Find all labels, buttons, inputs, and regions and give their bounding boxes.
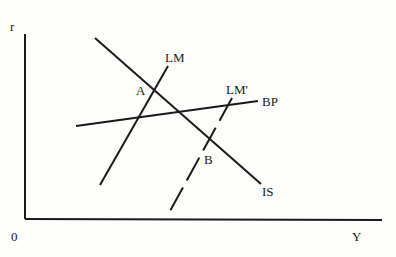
lm-curve [100, 66, 168, 185]
origin-label: 0 [11, 229, 18, 244]
y-axis-label: r [10, 19, 15, 34]
bp-curve [76, 101, 258, 126]
x-axis [25, 219, 382, 220]
lm-prime-curve [170, 98, 232, 211]
bp-label: BP [262, 94, 278, 109]
point-b-label: B [204, 152, 213, 167]
x-axis-label: Y [352, 229, 362, 244]
lm-label: LM [165, 50, 185, 65]
axes [25, 34, 382, 220]
is-label: IS [262, 184, 274, 199]
lm-prime-label: LM' [226, 82, 248, 97]
point-a-label: A [136, 83, 146, 98]
is-lm-bp-diagram: r 0 Y LM LM' BP IS A B [0, 0, 396, 257]
